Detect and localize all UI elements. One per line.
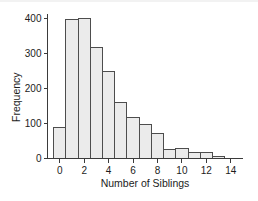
x-axis-title: Number of Siblings (101, 177, 190, 189)
figure-canvas: 0100200300400 02468101214 Frequency Numb… (0, 0, 258, 201)
histogram-bar (176, 149, 188, 159)
x-axis-tick-label: 2 (81, 165, 87, 176)
x-axis-tick-label: 12 (201, 165, 213, 176)
histogram-bar (78, 18, 90, 158)
histogram-bar (164, 150, 176, 159)
y-axis-tick-label: 200 (25, 83, 42, 94)
histogram-bar (66, 20, 78, 159)
y-axis-title: Frequency (10, 72, 22, 122)
y-tick-labels-group: 0100200300400 (25, 13, 42, 164)
histogram-bar (188, 152, 200, 158)
histogram-bar (139, 125, 151, 159)
histogram-bar (200, 153, 212, 159)
histogram-bar (151, 133, 163, 158)
y-axis-tick-label: 400 (25, 13, 42, 24)
x-axis-tick-label: 8 (155, 165, 161, 176)
histogram-bar (90, 48, 102, 159)
bars-group (54, 18, 225, 158)
y-axis-tick-label: 0 (36, 153, 42, 164)
y-axis-tick-label: 300 (25, 48, 42, 59)
histogram-bar (54, 128, 66, 159)
x-ticks-group (60, 159, 231, 163)
y-axis-tick-label: 100 (25, 118, 42, 129)
x-axis-tick-label: 4 (106, 165, 112, 176)
x-axis-tick-label: 10 (176, 165, 188, 176)
histogram-bar (127, 118, 139, 159)
x-axis-tick-label: 0 (57, 165, 63, 176)
x-tick-labels-group: 02468101214 (57, 165, 237, 176)
histogram-svg: 0100200300400 02468101214 Frequency Numb… (0, 0, 258, 201)
histogram-bar (115, 103, 127, 159)
x-axis-tick-label: 14 (225, 165, 237, 176)
histogram-bar (102, 71, 114, 158)
x-axis-tick-label: 6 (130, 165, 136, 176)
histogram-figure: 0100200300400 02468101214 Frequency Numb… (0, 0, 258, 201)
